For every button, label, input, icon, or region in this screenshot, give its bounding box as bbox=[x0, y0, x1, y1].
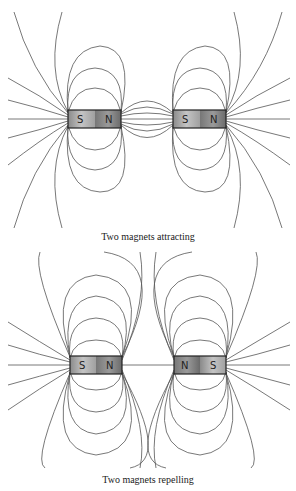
pole-label: S bbox=[182, 114, 188, 125]
attracting-field-lines bbox=[8, 12, 290, 228]
pole-label: N bbox=[106, 360, 113, 371]
caption-attracting: Two magnets attracting bbox=[0, 231, 296, 242]
repelling-field-lines bbox=[8, 252, 290, 468]
pole-label: S bbox=[210, 360, 216, 371]
pole-label: S bbox=[79, 360, 85, 371]
magnetic-field-figure: S N S N bbox=[0, 0, 296, 491]
magnet-3: S N bbox=[70, 356, 122, 374]
pole-label: N bbox=[181, 360, 188, 371]
magnet-4: N S bbox=[174, 356, 226, 374]
pole-label: N bbox=[105, 114, 112, 125]
magnet-2: S N bbox=[173, 110, 226, 128]
magnet-1: S N bbox=[68, 110, 121, 128]
caption-repelling: Two magnets repelling bbox=[0, 474, 296, 485]
pole-label: S bbox=[77, 114, 83, 125]
pole-label: N bbox=[210, 114, 217, 125]
